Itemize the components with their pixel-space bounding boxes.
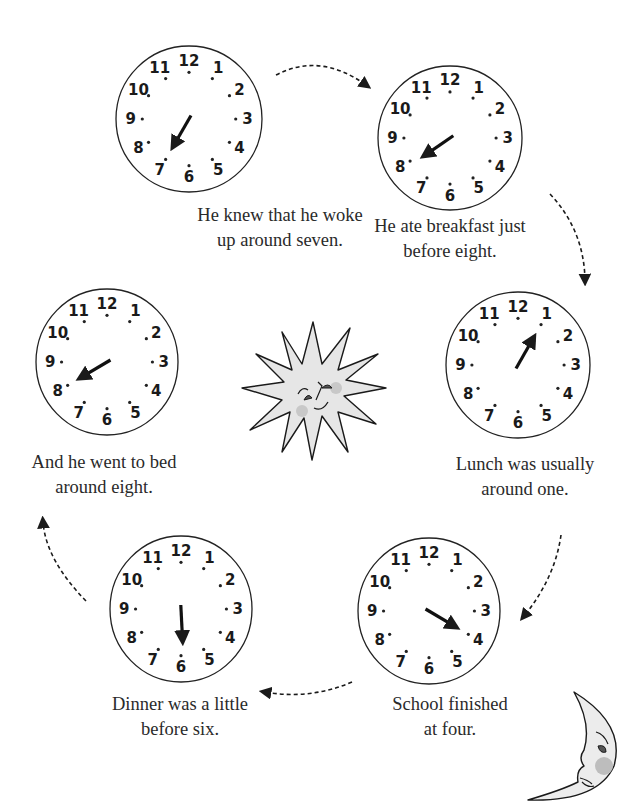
arrow-wake-to-breakfast-icon <box>276 66 366 85</box>
sun-cheek-left <box>296 405 308 417</box>
sun-icon <box>238 312 388 462</box>
arrow-school-to-dinner-icon <box>265 682 352 694</box>
arrow-dinner-to-bed-icon <box>43 522 86 601</box>
moon-cheek <box>595 757 613 775</box>
moon-icon <box>514 686 631 811</box>
arrow-lunch-to-school-icon <box>524 535 561 616</box>
arrow-breakfast-to-lunch-icon <box>550 194 585 280</box>
